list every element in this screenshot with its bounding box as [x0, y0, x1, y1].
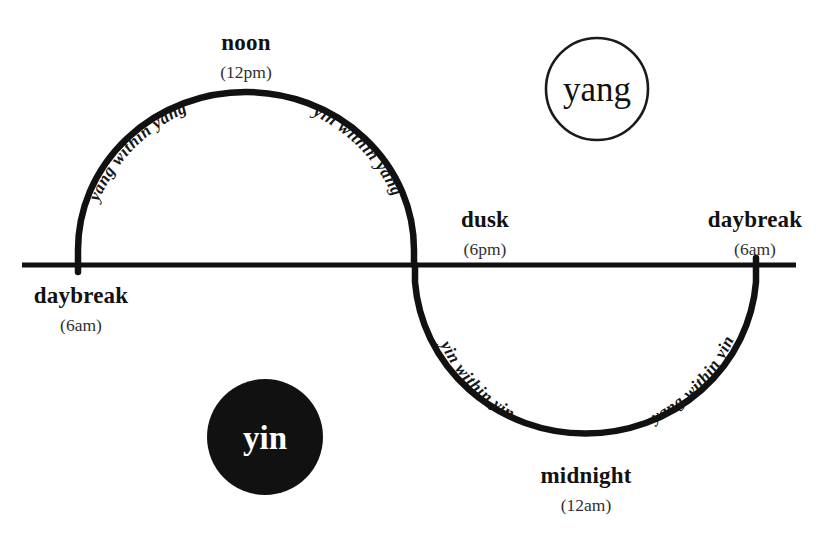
noon-label: noon [221, 30, 270, 55]
noon-time: (12pm) [220, 62, 272, 82]
dusk-time: (6pm) [464, 239, 507, 259]
sine-wave-crest [78, 92, 414, 272]
midnight-time: (12am) [561, 495, 612, 515]
midnight-label: midnight [540, 463, 631, 488]
time-marker-daybreak-left: daybreak (6am) [34, 283, 128, 335]
time-marker-noon: noon (12pm) [220, 30, 272, 82]
yin-circle-label: yin [243, 420, 287, 456]
arc-caption-yin-within-yin: yin within yin [436, 336, 519, 423]
daybreak-right-label: daybreak [708, 207, 802, 232]
yin-legend-circle: yin [207, 379, 323, 495]
arc-caption-yin-within-yang: yin within yang [309, 100, 407, 199]
diagram-canvas: yang within yang yin within yang yin wit… [0, 0, 825, 537]
sine-wave-trough [415, 258, 756, 433]
arc-caption-yang-within-yang: yang within yang [84, 98, 190, 206]
yang-legend-circle: yang [546, 38, 648, 140]
daybreak-left-label: daybreak [34, 283, 128, 308]
daybreak-left-time: (6am) [60, 315, 102, 335]
arc-caption-yang-within-yin: yang within yin [646, 333, 738, 428]
yang-circle-label: yang [563, 70, 631, 109]
dusk-label: dusk [461, 207, 509, 232]
yin-yang-cycle-diagram: yang within yang yin within yang yin wit… [0, 0, 825, 537]
time-marker-midnight: midnight (12am) [540, 463, 631, 515]
daybreak-right-time: (6am) [734, 239, 776, 259]
time-marker-dusk: dusk (6pm) [461, 207, 509, 259]
time-marker-daybreak-right: daybreak (6am) [708, 207, 802, 259]
